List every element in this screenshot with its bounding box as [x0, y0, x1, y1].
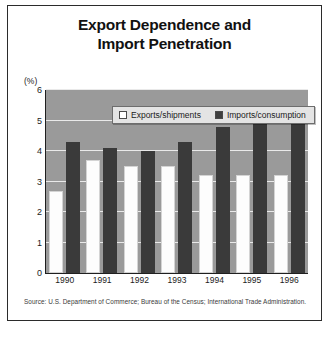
- bar-imports: [178, 142, 192, 273]
- plot-area: Exports/shipments Imports/consumption: [46, 90, 308, 273]
- legend-label-exports: Exports/shipments: [131, 110, 201, 120]
- bar-exports: [124, 166, 138, 273]
- plot-area-wrapper: (%) Exports/shipments Imports/consumptio…: [8, 76, 321, 294]
- bar-group: [46, 90, 83, 273]
- bar-imports: [216, 127, 230, 273]
- x-axis-tick-label: 1992: [122, 275, 158, 285]
- y-axis-tick-label: 0: [24, 268, 42, 278]
- source-note: Source: U.S. Department of Commerce; Bur…: [24, 298, 311, 305]
- legend-swatch-imports-icon: [215, 111, 223, 119]
- bar-exports: [49, 191, 63, 273]
- x-axis-tick-label: 1996: [271, 275, 307, 285]
- y-axis-tick-label: 4: [24, 146, 42, 156]
- x-axis-tick-label: 1994: [196, 275, 232, 285]
- bar-exports: [199, 175, 213, 273]
- x-axis-tick-label: 1993: [159, 275, 195, 285]
- bar-exports: [274, 175, 288, 273]
- x-axis-line: [45, 273, 308, 274]
- chart-figure: Export Dependence and Import Penetration…: [7, 5, 322, 321]
- bar-exports: [86, 160, 100, 273]
- bar-imports: [253, 124, 267, 273]
- y-axis-line: [45, 90, 46, 274]
- legend-swatch-exports-icon: [119, 111, 127, 119]
- x-axis-tick-label: 1990: [47, 275, 83, 285]
- legend-item-exports: Exports/shipments: [119, 110, 201, 120]
- bar-imports: [103, 148, 117, 273]
- bar-imports: [291, 113, 305, 273]
- chart-title-line-1: Export Dependence and: [22, 15, 307, 34]
- legend-item-imports: Imports/consumption: [215, 110, 306, 120]
- chart-title: Export Dependence and Import Penetration: [22, 15, 307, 53]
- bar-imports: [141, 151, 155, 273]
- x-axis-tick-label: 1995: [234, 275, 270, 285]
- chart-title-line-2: Import Penetration: [22, 34, 307, 53]
- y-axis-tick-label: 5: [24, 116, 42, 126]
- chart-legend: Exports/shipments Imports/consumption: [112, 106, 315, 124]
- y-axis-tick-label: 2: [24, 207, 42, 217]
- y-axis-tick-label: 6: [24, 85, 42, 95]
- y-axis-tick-label: 1: [24, 238, 42, 248]
- x-axis-tick-label: 1991: [84, 275, 120, 285]
- bar-imports: [66, 142, 80, 273]
- legend-label-imports: Imports/consumption: [227, 110, 306, 120]
- bar-exports: [236, 175, 250, 273]
- y-axis-tick-label: 3: [24, 177, 42, 187]
- bar-exports: [161, 166, 175, 273]
